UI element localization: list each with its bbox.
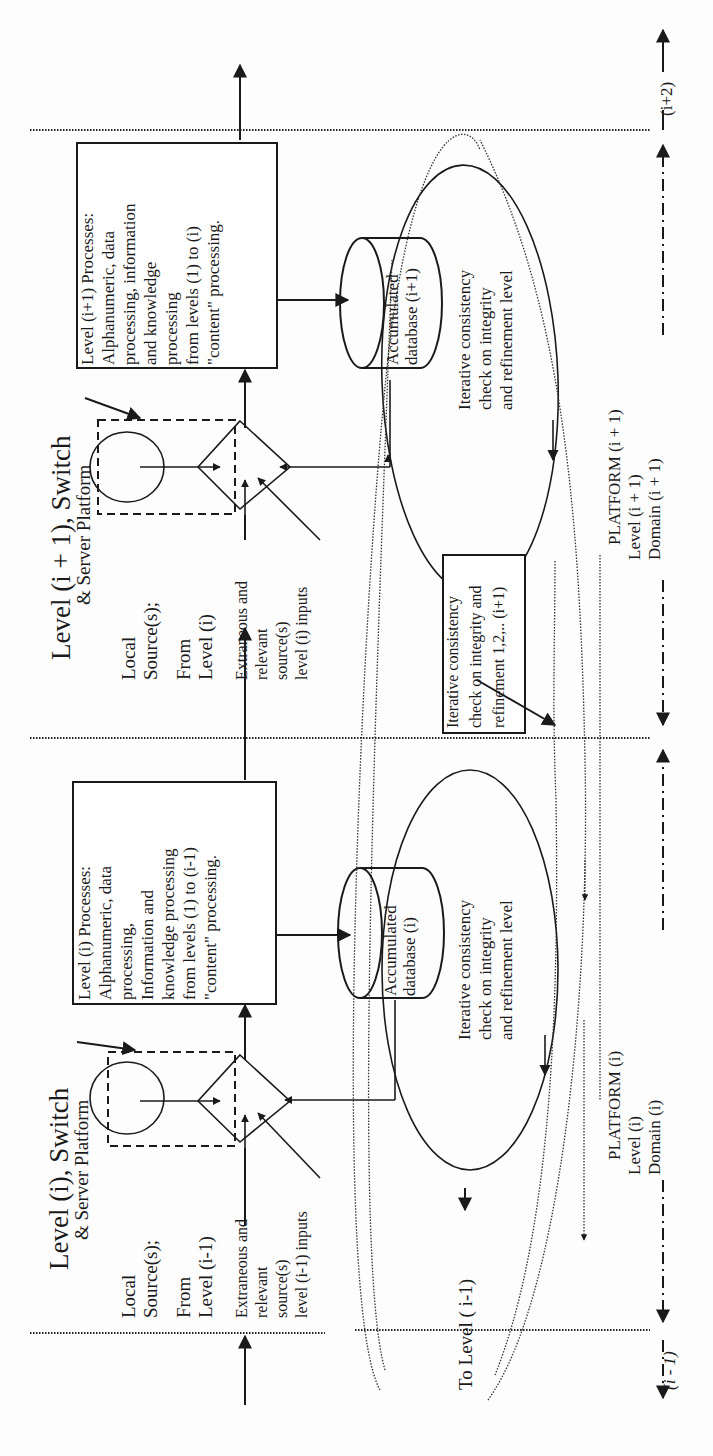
svg-text:To Level ( i-1): To Level ( i-1): [455, 1279, 477, 1390]
svg-text:(i - 1): (i - 1): [660, 1351, 679, 1390]
level-i-extraneous: Extraneous and relevant source(s) level …: [233, 1211, 311, 1318]
svg-text:and knowledge: and knowledge: [141, 262, 160, 365]
svg-text:Level (i), Switch: Level (i), Switch: [44, 1087, 74, 1270]
svg-text:from levels (1) to (i-1): from levels (1) to (i-1): [180, 847, 199, 1000]
svg-text:knowledge processing: knowledge processing: [159, 848, 178, 1000]
svg-text:From: From: [173, 1277, 194, 1318]
svg-text:Level (i): Level (i): [625, 1116, 644, 1175]
svg-text:Information and: Information and: [138, 890, 157, 1000]
switch-platform-box-i: [108, 1052, 235, 1146]
svg-text:relevant: relevant: [253, 1266, 270, 1318]
svg-text:Iterative consistency: Iterative consistency: [455, 269, 474, 410]
svg-text:& Server Platform: & Server Platform: [71, 1099, 92, 1240]
svg-text:refinement 1,2,.. (i+1): refinement 1,2,.. (i+1): [490, 587, 508, 728]
svg-text:Local: Local: [118, 1275, 139, 1318]
svg-text:Local: Local: [118, 637, 139, 680]
switch-diamond-i: [198, 1055, 290, 1142]
svg-text:Accumulated: Accumulated: [381, 905, 400, 996]
svg-text:Source(s);: Source(s);: [140, 602, 162, 680]
level-i1-title: Level (i + 1), Switch & Server Platform: [46, 435, 94, 660]
svg-text:check on integrity: check on integrity: [476, 287, 495, 410]
svg-text:Level (i): Level (i): [195, 614, 217, 680]
database-i1-label: Accumulated database (i+1): [383, 268, 421, 365]
svg-text:source(s): source(s): [273, 1259, 291, 1318]
level-i1-switch-platform: [85, 380, 390, 540]
svg-text:source(s): source(s): [273, 621, 291, 680]
return-path-right-outer: [480, 140, 586, 1400]
svg-text:Alphanumeric, data: Alphanumeric, data: [99, 230, 118, 365]
svg-text:relevant: relevant: [253, 628, 270, 680]
svg-text:Iterative consistency: Iterative consistency: [444, 596, 462, 728]
svg-text:Level (i + 1), Switch: Level (i + 1), Switch: [46, 435, 76, 660]
loop-i-text: Iterative consistency check on integrity…: [455, 899, 516, 1040]
svg-text:Extraneous and: Extraneous and: [233, 1219, 250, 1318]
svg-text:Level (i) Processes:: Level (i) Processes:: [75, 866, 94, 1000]
boundary-label-i-minus-1: (i - 1): [660, 1351, 679, 1390]
svg-text:Domain (i + 1): Domain (i + 1): [645, 458, 664, 560]
svg-text:Level (i+1) Processes:: Level (i+1) Processes:: [78, 213, 97, 365]
platform-pointer-arrow: [85, 398, 140, 418]
platform-i-label: PLATFORM (i) Level (i) Domain (i): [605, 1051, 664, 1175]
platform-i1-label: PLATFORM (i + 1) Level (i + 1) Domain (i…: [605, 409, 664, 560]
svg-text:level (i) inputs: level (i) inputs: [293, 587, 311, 680]
database-i-label: Accumulated database (i): [381, 905, 419, 996]
svg-text:Extraneous and: Extraneous and: [233, 581, 250, 680]
svg-text:"content" processing.: "content" processing.: [204, 220, 223, 365]
svg-text:check on integrity and: check on integrity and: [467, 585, 485, 728]
diagram-canvas: Level (i + 1), Switch & Server Platform …: [0, 0, 713, 1456]
svg-text:and refinement level: and refinement level: [497, 900, 516, 1040]
svg-text:from levels (1) to (i): from levels (1) to (i): [183, 226, 202, 365]
extraneous-arrow-i: [258, 1113, 320, 1178]
svg-text:database (i): database (i): [400, 917, 419, 996]
svg-text:processing,: processing,: [117, 923, 136, 1000]
boundary-label-i2: (i+2): [657, 82, 676, 116]
svg-text:processing, information: processing, information: [120, 203, 139, 365]
local-source-circle-i: [90, 1062, 164, 1134]
loop-i1-text: Iterative consistency check on integrity…: [455, 269, 516, 410]
svg-text:Iterative consistency: Iterative consistency: [455, 899, 474, 1040]
level-i-switch-platform: [77, 1000, 395, 1185]
svg-text:& Server Platform: & Server Platform: [73, 464, 94, 605]
svg-text:Level (i + 1): Level (i + 1): [625, 474, 644, 560]
svg-text:check on integrity: check on integrity: [476, 917, 495, 1040]
level-i-title: Level (i), Switch & Server Platform: [44, 1087, 92, 1270]
refinement-box-text: Iterative consistency check on integrity…: [444, 585, 508, 728]
extraneous-arrow: [258, 478, 320, 540]
level-i-local-sources: Local Source(s);: [118, 1240, 162, 1318]
platform-pointer-arrow-i: [77, 1042, 135, 1050]
svg-text:Source(s);: Source(s);: [140, 1240, 162, 1318]
svg-text:Level (i-1): Level (i-1): [195, 1236, 217, 1318]
svg-text:From: From: [173, 639, 194, 680]
level-i-from-level: From Level (i-1): [173, 1236, 217, 1318]
svg-text:PLATFORM (i): PLATFORM (i): [605, 1051, 624, 1160]
svg-text:Domain (i): Domain (i): [645, 1100, 664, 1175]
level-i1-from-level: From Level (i): [173, 614, 217, 680]
svg-text:and refinement level: and refinement level: [497, 270, 516, 410]
svg-text:(i+2): (i+2): [657, 82, 676, 116]
svg-text:PLATFORM (i + 1): PLATFORM (i + 1): [605, 409, 624, 545]
svg-text:level (i-1) inputs: level (i-1) inputs: [293, 1211, 311, 1318]
svg-text:"content" processing.: "content" processing.: [201, 855, 220, 1000]
hierarchical-platform-diagram: Level (i + 1), Switch & Server Platform …: [0, 0, 713, 1456]
level-i1-local-sources: Local Source(s);: [118, 602, 162, 680]
svg-text:database (i+1): database (i+1): [402, 268, 421, 365]
svg-text:Alphanumeric, data: Alphanumeric, data: [96, 865, 115, 1000]
svg-text:Accumulated: Accumulated: [383, 274, 402, 365]
to-level-i-minus-1-label: To Level ( i-1): [455, 1279, 477, 1390]
return-path-inner: [369, 260, 392, 1370]
level-i1-extraneous: Extraneous and relevant source(s) level …: [233, 581, 311, 680]
svg-text:processing: processing: [162, 292, 181, 365]
